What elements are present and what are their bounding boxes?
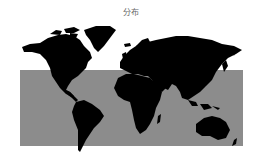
world-map xyxy=(0,0,262,162)
greenland xyxy=(84,26,116,52)
